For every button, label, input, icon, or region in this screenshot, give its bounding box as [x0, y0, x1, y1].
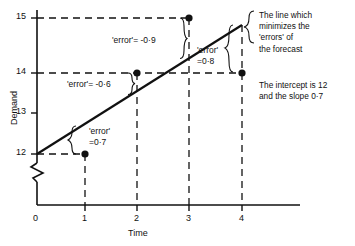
error-brace-t2 [128, 73, 135, 95]
x-tick-3: 3 [186, 213, 191, 223]
annotation-brace-line [244, 11, 254, 43]
x-tick-marks [85, 205, 242, 211]
x-tick-2: 2 [134, 213, 139, 223]
data-point-t4 [238, 69, 245, 76]
annotation-line-description: The line which minimizes the 'errors' of… [259, 10, 312, 55]
annotation-braces [244, 11, 254, 43]
annotation-intercept-slope: The intercept is 12 and the slope 0·7 [259, 80, 327, 102]
x-tick-0: 0 [33, 213, 38, 223]
x-axis-label: Time [128, 228, 148, 238]
error-label-t3: 'error'= -0·9 [112, 35, 156, 46]
x-tick-4: 4 [239, 213, 244, 223]
y-axis-label: Demand [9, 91, 19, 125]
error-label-t2: 'error'= -0·6 [67, 79, 111, 90]
data-point-t3 [185, 14, 192, 21]
data-point-t1 [81, 150, 88, 157]
error-label-t4: 'error' =0·8 [197, 45, 218, 67]
y-tick-14: 14 [16, 66, 26, 76]
drop-guides [85, 18, 242, 205]
error-brace-t3 [180, 18, 187, 59]
y-tick-12: 12 [16, 147, 26, 157]
y-tick-marks [31, 18, 37, 154]
chart-figure: 15 14 13 12 Demand 0 1 2 3 4 Time 'error… [0, 0, 355, 246]
y-tick-15: 15 [16, 11, 26, 21]
error-label-t1: 'error' =0·7 [89, 126, 110, 148]
data-point-t2 [133, 69, 140, 76]
x-tick-1: 1 [82, 213, 87, 223]
